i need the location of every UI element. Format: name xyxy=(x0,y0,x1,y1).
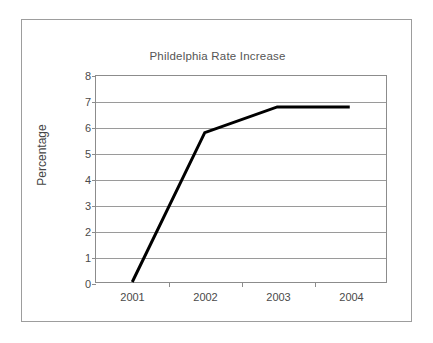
y-axis-title: Percentage xyxy=(35,100,49,210)
y-tick-mark xyxy=(92,284,96,285)
x-tick-mark xyxy=(315,282,316,287)
y-tick-label: 5 xyxy=(85,148,91,160)
plot-area: 012345678 2001200220032004 xyxy=(95,75,387,283)
y-tick-label: 1 xyxy=(85,252,91,264)
x-tick-label: 2003 xyxy=(266,291,290,303)
y-tick-label: 2 xyxy=(85,226,91,238)
data-series-line xyxy=(96,76,386,282)
chart-title: Phildelphia Rate Increase xyxy=(22,50,413,62)
series-polyline xyxy=(132,107,350,282)
y-tick-label: 4 xyxy=(85,174,91,186)
y-tick-label: 0 xyxy=(85,278,91,290)
x-tick-mark xyxy=(242,282,243,287)
y-tick-label: 7 xyxy=(85,96,91,108)
y-tick-label: 6 xyxy=(85,122,91,134)
x-tick-label: 2001 xyxy=(120,291,144,303)
y-tick-label: 8 xyxy=(85,70,91,82)
x-tick-label: 2002 xyxy=(193,291,217,303)
chart-figure-frame: Phildelphia Rate Increase Percentage 012… xyxy=(21,19,412,322)
x-tick-label: 2004 xyxy=(339,291,363,303)
x-tick-mark xyxy=(169,282,170,287)
y-tick-label: 3 xyxy=(85,200,91,212)
